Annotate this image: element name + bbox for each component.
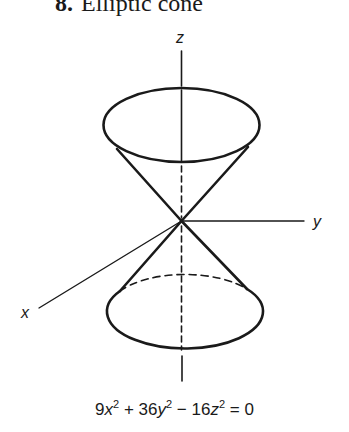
equation-rhs: = 0 [230, 400, 254, 419]
var-x: x [105, 400, 114, 419]
y-axis-label: y [312, 213, 322, 230]
coef-z: 16 [192, 400, 211, 419]
exp-x: 2 [113, 398, 119, 410]
cone-line-lower-right [182, 221, 248, 289]
cone-line-lower-left [120, 221, 182, 291]
coef-y: 36 [139, 400, 158, 419]
exp-y: 2 [166, 398, 172, 410]
bottom-ellipse-hidden [120, 274, 247, 291]
op-minus: − [177, 400, 187, 419]
x-axis-label: x [20, 304, 30, 321]
equation: 9x2 + 36y2 − 16z2 = 0 [0, 398, 349, 420]
var-y: y [158, 400, 167, 419]
x-axis [39, 221, 182, 308]
var-z: z [210, 400, 219, 419]
coef-x: 9 [95, 400, 104, 419]
cone-diagram: z y x [0, 0, 349, 432]
op-plus: + [124, 400, 134, 419]
z-axis-label: z [175, 29, 184, 46]
bottom-ellipse-visible [107, 289, 263, 348]
exp-z: 2 [219, 398, 225, 410]
